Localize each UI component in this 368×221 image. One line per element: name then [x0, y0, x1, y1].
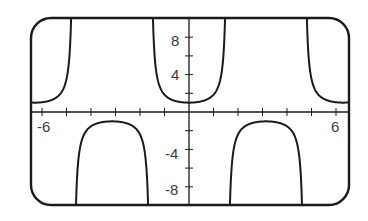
y-tick-label-neg8: -8: [165, 181, 178, 198]
x-tick-label-6: 6: [331, 118, 339, 135]
sec-curve-branch: [305, 0, 350, 103]
y-tick-label-4: 4: [171, 66, 179, 83]
sec-curve-branch: [31, 0, 73, 103]
plot-area: [31, 0, 350, 221]
y-tick-label-8: 8: [171, 32, 179, 49]
sec-curve-branches: [31, 0, 350, 221]
sec-function-graph: -6 6 8 4 -4 -8: [0, 0, 368, 221]
y-tick-label-neg4: -4: [165, 145, 178, 162]
x-tick-label-neg6: -6: [37, 118, 50, 135]
